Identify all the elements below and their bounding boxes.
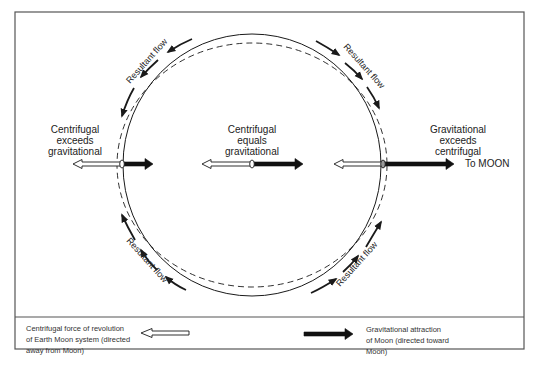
to-moon-label: To MOON: [465, 158, 509, 169]
point-marker: [250, 160, 255, 168]
label-line: Centrifugal: [35, 124, 115, 135]
label-right-region: Gravitational exceeds centrifugal: [418, 124, 498, 157]
flow-label-bottom-right: Resultant flow: [334, 239, 380, 288]
label-line: Gravitational: [418, 124, 498, 135]
flow-arrows-bottom-left: [122, 215, 186, 290]
center-force-arrows: [202, 159, 303, 170]
diagram-frame: [15, 12, 524, 349]
right-force-arrows: [334, 159, 454, 170]
legend-centrifugal-text: Centrifugal force of revolution of Earth…: [26, 323, 130, 356]
label-line: equals: [212, 135, 292, 146]
tidal-force-diagram: Resultant flow Resultant flow Resultant …: [0, 0, 537, 370]
legend-line: Gravitational attraction: [366, 324, 449, 335]
label-line: gravitational: [35, 146, 115, 157]
solid-arrow-right-icon: [252, 159, 303, 170]
left-force-arrows: [73, 159, 153, 170]
solid-arrow-right-icon: [383, 159, 454, 170]
legend-gravitational-text: Gravitational attraction of Moon (direct…: [366, 324, 449, 357]
legend-line: away from Moon): [26, 345, 130, 356]
legend-line: of Earth Moon system (directed: [26, 334, 130, 345]
label-line: Centrifugal: [212, 124, 292, 135]
hollow-arrow-left-icon: [334, 160, 383, 169]
hollow-arrow-left-icon: [73, 160, 122, 169]
label-line: exceeds: [35, 135, 115, 146]
hollow-arrow-left-icon: [202, 160, 252, 169]
label-center-region: Centrifugal equals gravitational: [212, 124, 292, 157]
legend-solid-arrow-icon: [304, 329, 353, 340]
label-line: centrifugal: [418, 146, 498, 157]
label-line: exceeds: [418, 135, 498, 146]
label-line: gravitational: [212, 146, 292, 157]
legend-line: Centrifugal force of revolution: [26, 323, 130, 334]
point-marker: [381, 160, 386, 168]
solid-arrow-right-icon: [122, 159, 153, 170]
label-left-region: Centrifugal exceeds gravitational: [35, 124, 115, 157]
legend-line: Moon): [366, 346, 449, 357]
flow-label-top-left: Resultant flow: [124, 36, 170, 85]
legend-line: of Moon (directed toward: [366, 335, 449, 346]
legend-hollow-arrow-icon: [141, 329, 189, 338]
point-marker: [120, 160, 125, 168]
